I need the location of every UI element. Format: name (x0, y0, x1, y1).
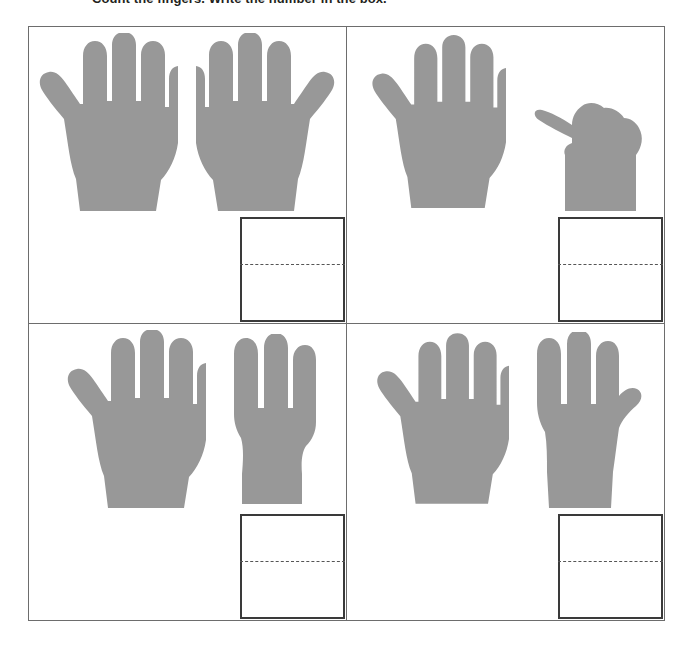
left-hand-open-5-icon (29, 33, 178, 211)
hands-row-2 (347, 33, 665, 213)
answer-box-2[interactable] (558, 217, 663, 322)
left-hand-open-5-icon (361, 33, 506, 211)
answer-input-1[interactable] (242, 219, 343, 320)
problem-cell-1 (29, 27, 347, 324)
answer-box-1[interactable] (240, 217, 345, 322)
instruction-bar: Count the fingers. Write the number in t… (0, 0, 693, 9)
answer-input-4[interactable] (560, 516, 661, 617)
problem-cell-2 (347, 27, 665, 324)
answer-input-3[interactable] (242, 516, 343, 617)
right-hand-open-5-icon (196, 33, 346, 211)
answer-box-3[interactable] (240, 514, 345, 619)
right-hand-closed-fist-0-icon (532, 95, 650, 211)
left-hand-open-5-icon (56, 330, 206, 508)
problem-cell-3 (29, 324, 347, 621)
hands-row-1 (29, 33, 346, 213)
right-hand-three-fingers-icon (222, 334, 318, 504)
right-hand-four-fingers-icon (523, 332, 645, 508)
worksheet-grid (28, 26, 665, 621)
hands-row-4 (347, 330, 665, 510)
instruction-text: Count the fingers. Write the number in t… (92, 0, 387, 6)
answer-input-2[interactable] (560, 219, 661, 320)
hands-row-3 (29, 330, 346, 510)
problem-cell-4 (347, 324, 665, 621)
left-hand-open-5-icon (366, 330, 509, 508)
answer-box-4[interactable] (558, 514, 663, 619)
